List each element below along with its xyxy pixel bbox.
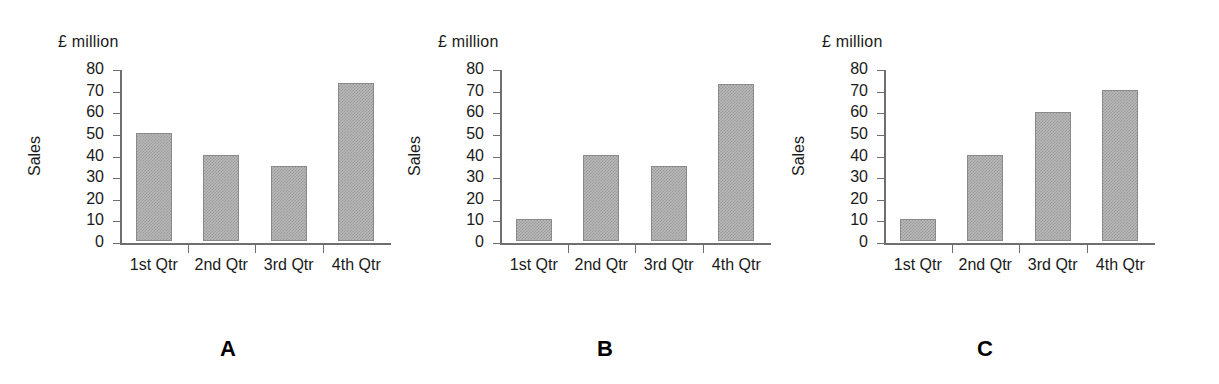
y-tick-a-30: 30 bbox=[113, 178, 120, 179]
y-tick-a-70: 70 bbox=[113, 92, 120, 93]
category-label-b-3: 3rd Qtr bbox=[635, 256, 703, 274]
category-label-c-1: 1st Qtr bbox=[884, 256, 952, 274]
y-tick-b-10: 10 bbox=[493, 221, 500, 222]
y-tick-b-30: 30 bbox=[493, 178, 500, 179]
y-tick-a-60: 60 bbox=[113, 113, 120, 114]
category-label-a-4: 4th Qtr bbox=[323, 256, 391, 274]
y-tick-a-0: 0 bbox=[113, 243, 120, 244]
y-tick-label-b-10: 10 bbox=[466, 210, 484, 230]
y-tick-b-20: 20 bbox=[493, 200, 500, 201]
y-tick-label-a-10: 10 bbox=[86, 210, 104, 230]
x-tick-b-3 bbox=[703, 245, 704, 253]
y-axis-line-a bbox=[120, 70, 122, 244]
category-label-c-2: 2nd Qtr bbox=[952, 256, 1020, 274]
y-tick-label-a-20: 20 bbox=[86, 189, 104, 209]
x-tick-a-1 bbox=[188, 245, 189, 253]
y-tick-c-0: 0 bbox=[877, 243, 884, 244]
y-axis-title-a: Sales bbox=[26, 128, 44, 184]
unit-note-a: £ million bbox=[58, 33, 119, 51]
chart-panel-a: £ million Sales 01020304050607080 1st Qt… bbox=[28, 0, 428, 330]
y-tick-label-b-70: 70 bbox=[466, 81, 484, 101]
y-tick-b-40: 40 bbox=[493, 157, 500, 158]
panel-letter-b: B bbox=[585, 336, 625, 362]
y-tick-label-c-30: 30 bbox=[850, 167, 868, 187]
y-tick-label-a-0: 0 bbox=[95, 232, 104, 252]
y-tick-label-c-50: 50 bbox=[850, 124, 868, 144]
y-tick-label-a-80: 80 bbox=[86, 59, 104, 79]
y-tick-c-40: 40 bbox=[877, 157, 884, 158]
y-axis-line-c bbox=[884, 70, 886, 244]
bar-c-2 bbox=[967, 155, 1003, 242]
y-tick-label-c-80: 80 bbox=[850, 59, 868, 79]
category-label-a-2: 2nd Qtr bbox=[188, 256, 256, 274]
chart-panel-group: £ million Sales 01020304050607080 1st Qt… bbox=[0, 0, 1219, 330]
category-label-b-1: 1st Qtr bbox=[500, 256, 568, 274]
y-tick-label-c-40: 40 bbox=[850, 146, 868, 166]
category-label-b-4: 4th Qtr bbox=[703, 256, 771, 274]
plot-area-a: 01020304050607080 1st Qtr2nd Qtr3rd Qtr4… bbox=[120, 70, 390, 243]
unit-note-c: £ million bbox=[822, 33, 883, 51]
category-label-c-4: 4th Qtr bbox=[1087, 256, 1155, 274]
y-axis-title-c: Sales bbox=[790, 128, 808, 184]
y-tick-c-20: 20 bbox=[877, 200, 884, 201]
y-tick-label-b-30: 30 bbox=[466, 167, 484, 187]
bar-b-4 bbox=[718, 84, 754, 241]
x-tick-c-1 bbox=[952, 245, 953, 253]
y-tick-label-a-50: 50 bbox=[86, 124, 104, 144]
y-tick-c-50: 50 bbox=[877, 135, 884, 136]
y-tick-label-c-20: 20 bbox=[850, 189, 868, 209]
panel-letter-a: A bbox=[208, 336, 248, 362]
x-tick-b-2 bbox=[635, 245, 636, 253]
y-axis-title-b: Sales bbox=[406, 128, 424, 184]
y-tick-label-a-30: 30 bbox=[86, 167, 104, 187]
y-tick-b-50: 50 bbox=[493, 135, 500, 136]
y-tick-label-c-70: 70 bbox=[850, 81, 868, 101]
bar-a-2 bbox=[203, 155, 239, 242]
x-tick-a-2 bbox=[255, 245, 256, 253]
y-tick-label-a-70: 70 bbox=[86, 81, 104, 101]
x-tick-c-2 bbox=[1019, 245, 1020, 253]
bar-a-1 bbox=[136, 133, 172, 241]
bar-c-1 bbox=[900, 219, 936, 241]
y-tick-label-b-0: 0 bbox=[475, 232, 484, 252]
y-tick-label-b-20: 20 bbox=[466, 189, 484, 209]
y-tick-a-40: 40 bbox=[113, 157, 120, 158]
y-tick-b-70: 70 bbox=[493, 92, 500, 93]
x-tick-b-1 bbox=[568, 245, 569, 253]
category-label-a-1: 1st Qtr bbox=[120, 256, 188, 274]
bar-b-2 bbox=[583, 155, 619, 242]
unit-note-b: £ million bbox=[438, 33, 499, 51]
bar-b-1 bbox=[516, 219, 552, 241]
y-tick-label-b-80: 80 bbox=[466, 59, 484, 79]
category-label-b-2: 2nd Qtr bbox=[568, 256, 636, 274]
category-label-a-3: 3rd Qtr bbox=[255, 256, 323, 274]
y-tick-label-b-50: 50 bbox=[466, 124, 484, 144]
bar-b-3 bbox=[651, 166, 687, 241]
y-tick-a-50: 50 bbox=[113, 135, 120, 136]
plot-area-c: 01020304050607080 1st Qtr2nd Qtr3rd Qtr4… bbox=[884, 70, 1154, 243]
y-tick-label-a-40: 40 bbox=[86, 146, 104, 166]
bar-c-4 bbox=[1102, 90, 1138, 241]
y-tick-label-b-40: 40 bbox=[466, 146, 484, 166]
y-tick-a-10: 10 bbox=[113, 221, 120, 222]
category-label-c-3: 3rd Qtr bbox=[1019, 256, 1087, 274]
y-tick-b-0: 0 bbox=[493, 243, 500, 244]
bar-a-3 bbox=[271, 166, 307, 241]
y-tick-label-c-10: 10 bbox=[850, 210, 868, 230]
plot-area-b: 01020304050607080 1st Qtr2nd Qtr3rd Qtr4… bbox=[500, 70, 770, 243]
y-tick-c-70: 70 bbox=[877, 92, 884, 93]
panel-letter-c: C bbox=[965, 336, 1005, 362]
y-tick-label-b-60: 60 bbox=[466, 102, 484, 122]
y-tick-a-80: 80 bbox=[113, 70, 120, 71]
x-tick-c-3 bbox=[1087, 245, 1088, 253]
y-tick-c-60: 60 bbox=[877, 113, 884, 114]
y-tick-c-80: 80 bbox=[877, 70, 884, 71]
chart-panel-b: £ million Sales 01020304050607080 1st Qt… bbox=[408, 0, 808, 330]
y-tick-label-c-0: 0 bbox=[859, 232, 868, 252]
y-axis-line-b bbox=[500, 70, 502, 244]
y-tick-label-c-60: 60 bbox=[850, 102, 868, 122]
bar-c-3 bbox=[1035, 112, 1071, 241]
y-tick-b-80: 80 bbox=[493, 70, 500, 71]
y-tick-a-20: 20 bbox=[113, 200, 120, 201]
x-tick-a-3 bbox=[323, 245, 324, 253]
